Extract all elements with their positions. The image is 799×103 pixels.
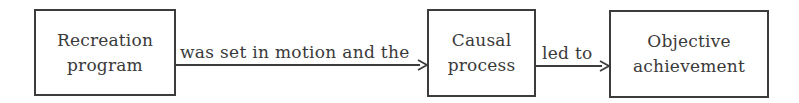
node-recreation-program: Recreation program (34, 9, 176, 96)
edge-recreation-to-causal (176, 64, 420, 66)
edge-label: led to (542, 43, 593, 63)
node-causal-process: Causal process (427, 9, 536, 97)
node-label: Objective achievement (633, 29, 745, 79)
node-label: Causal process (448, 28, 516, 78)
edge-label: was set in motion and the (180, 42, 410, 62)
node-label: Recreation program (57, 28, 153, 78)
node-objective-achievement: Objective achievement (609, 10, 769, 98)
edge-causal-to-objective (536, 65, 602, 67)
